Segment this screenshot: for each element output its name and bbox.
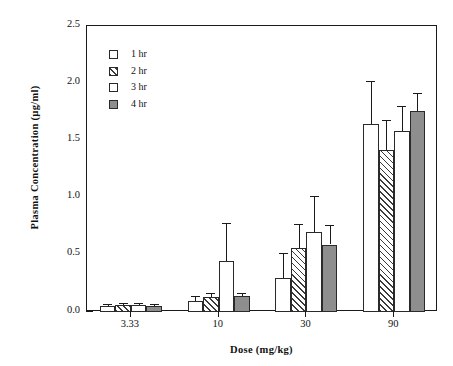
legend-swatch — [109, 50, 118, 59]
error-bar — [314, 196, 315, 231]
bar — [234, 296, 250, 312]
error-bar — [371, 81, 372, 124]
bar — [203, 297, 219, 312]
error-bar-cap — [413, 93, 422, 94]
error-bar — [417, 93, 418, 110]
error-bar — [283, 253, 284, 278]
bar — [100, 306, 116, 312]
legend-label: 1 hr — [131, 48, 147, 59]
legend-swatch — [109, 100, 118, 109]
y-tick-label: 0.5 — [40, 246, 80, 257]
y-axis-title: Plasma Concentration (µg/ml) — [29, 38, 40, 278]
legend-label: 4 hr — [131, 98, 147, 109]
x-tick-label: 90 — [358, 318, 428, 329]
bar — [363, 124, 379, 312]
bar — [115, 305, 131, 312]
x-tick-label: 3.33 — [95, 318, 165, 329]
error-bar-cap — [310, 196, 319, 197]
error-bar-cap — [134, 303, 143, 304]
bar — [306, 232, 322, 312]
y-tick-label: 1.0 — [40, 189, 80, 200]
x-tick-label: 30 — [270, 318, 340, 329]
x-tick-major — [130, 311, 131, 317]
x-tick-major — [393, 311, 394, 317]
error-bar-cap — [191, 296, 200, 297]
plot-area: 1 hr2 hr3 hr4 hr — [86, 25, 437, 311]
bar — [219, 261, 235, 312]
error-bar — [226, 223, 227, 261]
x-tick-major — [218, 311, 219, 317]
error-bar-cap — [279, 253, 288, 254]
error-bar-cap — [150, 304, 159, 305]
error-bar-cap — [237, 293, 246, 294]
bar — [410, 111, 426, 312]
error-bar-cap — [103, 304, 112, 305]
x-tick-label: 10 — [183, 318, 253, 329]
error-bar — [386, 120, 387, 150]
error-bar-cap — [222, 223, 231, 224]
error-bar-cap — [119, 303, 128, 304]
error-bar — [402, 106, 403, 131]
y-tick-label: 0.0 — [40, 304, 80, 315]
error-bar-cap — [397, 106, 406, 107]
legend-label: 3 hr — [131, 81, 147, 92]
y-tick-major — [86, 311, 93, 312]
bar — [379, 150, 395, 312]
bar — [188, 301, 204, 312]
bar — [394, 131, 410, 312]
error-bar-cap — [294, 224, 303, 225]
x-tick-major — [305, 311, 306, 317]
chart-figure: Plasma Concentration (µg/ml) 0.00.51.01.… — [0, 0, 453, 366]
y-tick-label: 2.5 — [40, 18, 80, 29]
error-bar-cap — [366, 81, 375, 82]
y-tick-label: 2.0 — [40, 75, 80, 86]
bar — [146, 306, 162, 312]
error-bar-cap — [382, 120, 391, 121]
legend-swatch — [109, 83, 118, 92]
error-bar-cap — [206, 293, 215, 294]
legend-label: 2 hr — [131, 65, 147, 76]
bar — [291, 248, 307, 312]
legend-swatch — [109, 67, 118, 76]
error-bar — [299, 224, 300, 248]
bar — [131, 305, 147, 312]
x-axis-title: Dose (mg/kg) — [86, 344, 437, 355]
bar — [275, 278, 291, 312]
error-bar — [330, 225, 331, 244]
y-tick-label: 1.5 — [40, 132, 80, 143]
error-bar-cap — [325, 225, 334, 226]
bar — [322, 245, 338, 312]
